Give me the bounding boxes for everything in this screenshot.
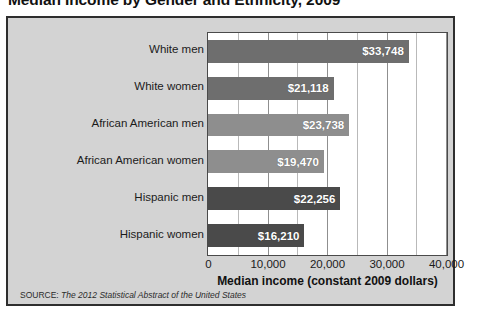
- chart-title: Median Income by Gender and Ethnicity, 2…: [8, 0, 478, 11]
- bar-row: $22,256: [208, 187, 447, 210]
- source-label: SOURCE:: [20, 290, 59, 300]
- category-label: Hispanic women: [120, 229, 204, 241]
- bars-container: $33,748$21,118$23,738$19,470$22,256$16,2…: [208, 33, 447, 255]
- x-tick-label: 40,000: [429, 258, 464, 270]
- source-text: The 2012 Statistical Abstract of the Uni…: [61, 290, 246, 300]
- chart-panel: $33,748$21,118$23,738$19,470$22,256$16,2…: [6, 16, 455, 306]
- bar-row: $33,748: [208, 40, 447, 63]
- bar-value-label: $22,256: [294, 193, 341, 205]
- x-tick-label: 10,000: [250, 258, 285, 270]
- bar-row: $23,738: [208, 114, 447, 137]
- x-tick-label: 30,000: [369, 258, 404, 270]
- bar-row: $19,470: [208, 150, 447, 173]
- bar: $16,210: [208, 224, 304, 247]
- source-note: SOURCE: The 2012 Statistical Abstract of…: [20, 290, 246, 300]
- bar: $23,738: [208, 114, 349, 137]
- category-label: African American women: [77, 155, 204, 167]
- x-tick-label: 0: [205, 258, 211, 270]
- bar: $19,470: [208, 150, 324, 173]
- category-label: White men: [149, 44, 204, 56]
- bar-value-label: $19,470: [277, 156, 324, 168]
- bar-value-label: $16,210: [258, 230, 305, 242]
- bar-value-label: $23,738: [303, 119, 350, 131]
- category-label: Hispanic men: [134, 192, 204, 204]
- category-labels: White menWhite womenAfrican American men…: [18, 32, 204, 256]
- chart-figure: Median Income by Gender and Ethnicity, 2…: [0, 0, 491, 321]
- plot-area: $33,748$21,118$23,738$19,470$22,256$16,2…: [207, 32, 448, 256]
- bar-value-label: $33,748: [362, 45, 409, 57]
- bar: $22,256: [208, 187, 340, 210]
- bar: $33,748: [208, 40, 409, 63]
- bar-row: $21,118: [208, 77, 447, 100]
- x-tick-label: 20,000: [310, 258, 345, 270]
- bar: $21,118: [208, 77, 334, 100]
- x-axis-tick-labels: 010,00020,00030,00040,000: [207, 258, 448, 274]
- bar-row: $16,210: [208, 224, 447, 247]
- x-axis-title: Median income (constant 2009 dollars): [207, 274, 448, 288]
- bar-value-label: $21,118: [288, 82, 334, 94]
- category-label: African American men: [92, 118, 205, 130]
- category-label: White women: [134, 81, 204, 93]
